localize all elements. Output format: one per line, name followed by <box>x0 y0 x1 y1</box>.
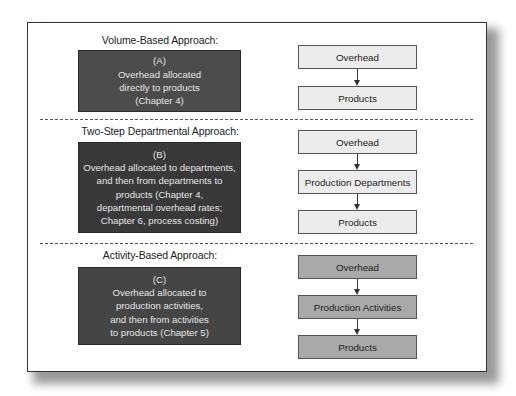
flow-box-products: Products <box>298 210 417 234</box>
description-line: production activities, <box>116 299 203 312</box>
flow-box-products: Products <box>298 335 417 359</box>
description-line: Overhead allocated to departments, <box>83 161 236 174</box>
section-title-volume-based: Volume-Based Approach: <box>60 34 260 46</box>
section-title-two-step-departmental: Two-Step Departmental Approach: <box>60 125 260 137</box>
description-line: directly to products <box>119 81 200 94</box>
description-box-c: (C) Overhead allocated to production act… <box>78 267 241 345</box>
description-line: Overhead allocated <box>118 68 201 81</box>
description-line: and then from activities <box>110 313 209 326</box>
description-line: products (Chapter 4, <box>116 188 203 201</box>
flow-box-overhead: Overhead <box>298 130 417 154</box>
description-box-b: (B) Overhead allocated to departments, a… <box>78 142 241 233</box>
section-title-activity-based: Activity-Based Approach: <box>60 249 260 261</box>
description-label: (C) <box>153 273 166 286</box>
description-line: (Chapter 4) <box>135 94 184 107</box>
arrow-down-icon <box>356 154 359 170</box>
arrow-down-icon <box>356 69 359 86</box>
flow-box-products: Products <box>298 86 417 110</box>
description-line: departmental overhead rates; <box>97 201 222 214</box>
description-line: and then from departments to <box>97 174 223 187</box>
arrow-down-icon <box>356 194 359 210</box>
description-label: (A) <box>153 54 166 67</box>
flow-box-production-departments: Production Departments <box>298 170 417 194</box>
arrow-down-icon <box>356 279 359 295</box>
flow-box-overhead: Overhead <box>298 255 417 279</box>
flow-box-production-activities: Production Activities <box>298 295 417 319</box>
description-label: (B) <box>153 148 166 161</box>
description-line: to products (Chapter 5) <box>110 326 209 339</box>
flow-box-overhead: Overhead <box>298 45 417 69</box>
section-divider <box>40 243 473 244</box>
description-line: Chapter 6, process costing) <box>101 214 218 227</box>
description-line: Overhead allocated to <box>113 286 207 299</box>
section-divider <box>40 119 473 120</box>
description-box-a: (A) Overhead allocated directly to produ… <box>78 50 241 112</box>
arrow-down-icon <box>356 319 359 335</box>
